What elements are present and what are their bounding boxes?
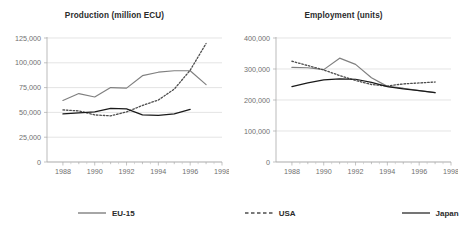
series-line-eu-15 [63,71,206,101]
x-tick-label: 1996 [411,167,427,176]
series-line-usa [63,43,206,115]
legend-item-japan: Japan [402,208,459,218]
y-tick-label: 75,000 [19,83,41,92]
plot-area-production: 025,00050,00075,000100,000125,0001988199… [0,0,229,190]
plot-area-employment: 0100,000200,000300,000400,00019881990199… [229,0,458,190]
legend-item-usa: USA [245,208,296,218]
legend-label-usa: USA [279,209,296,218]
series-line-eu-15 [292,58,435,92]
x-tick-label: 1990 [87,167,103,176]
x-tick-label: 1992 [119,167,135,176]
charts-row: Production (million ECU) 025,00050,00075… [0,0,458,190]
chart-legend: EU-15 USA Japan [0,198,458,228]
chart-panel-production: Production (million ECU) 025,00050,00075… [0,0,229,190]
series-line-japan [292,79,435,93]
x-tick-label: 1988 [55,167,71,176]
employment-line-chart: 0100,000200,000300,000400,00019881990199… [229,0,458,190]
y-tick-label: 400,000 [244,34,270,43]
y-tick-label: 100,000 [244,127,270,136]
x-tick-label: 1988 [284,167,300,176]
x-tick-label: 1996 [182,167,198,176]
legend-label-japan: Japan [436,209,459,218]
chart-panel-employment: Employment (units) 0100,000200,000300,00… [229,0,458,190]
production-line-chart: 025,00050,00075,000100,000125,0001988199… [0,0,229,190]
y-tick-label: 100,000 [15,58,41,67]
x-tick-label: 1998 [214,167,229,176]
legend-label-eu-15: EU-15 [112,209,135,218]
legend-swatch-eu-15 [78,208,106,218]
legend-swatch-japan [402,208,430,218]
y-tick-label: 200,000 [244,96,270,105]
x-tick-label: 1992 [348,167,364,176]
x-tick-label: 1998 [443,167,458,176]
y-tick-label: 50,000 [19,108,41,117]
x-tick-label: 1994 [379,167,395,176]
y-tick-label: 25,000 [19,133,41,142]
y-tick-label: 125,000 [15,34,41,43]
y-tick-label: 300,000 [244,65,270,74]
x-tick-label: 1990 [316,167,332,176]
legend-item-eu-15: EU-15 [78,208,135,218]
y-tick-label: 0 [266,158,270,167]
x-tick-label: 1994 [150,167,166,176]
legend-swatch-usa [245,208,273,218]
y-tick-label: 0 [37,158,41,167]
